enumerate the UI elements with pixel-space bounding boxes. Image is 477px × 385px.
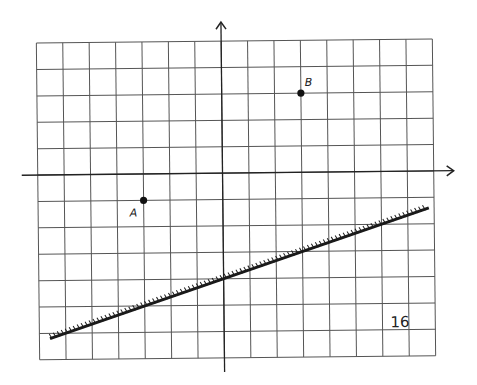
- point-label: B: [305, 76, 313, 89]
- grid-line-horizontal: [37, 92, 433, 96]
- grid-line-horizontal: [37, 118, 433, 122]
- grid-lines: [36, 39, 435, 360]
- grid-line-horizontal: [39, 303, 435, 307]
- rotated-grid-group: AB 16: [20, 20, 456, 374]
- page-number: 16: [390, 313, 409, 331]
- grid-line-horizontal: [39, 277, 435, 281]
- grid-line-horizontal: [37, 65, 433, 69]
- grid-line-horizontal: [39, 250, 435, 254]
- point-b: B: [297, 76, 312, 97]
- grid-line-horizontal: [36, 39, 432, 43]
- x-axis: [22, 171, 454, 176]
- grid-line-horizontal: [39, 329, 435, 333]
- grid-line-horizontal: [38, 197, 434, 201]
- grid-line-horizontal: [40, 356, 436, 360]
- grid-line-horizontal: [37, 145, 433, 149]
- y-axis: [221, 22, 225, 372]
- point-label: A: [129, 206, 138, 219]
- point-marker-icon: [140, 197, 147, 204]
- coordinate-plane-diagram: AB 16: [0, 0, 477, 385]
- point-marker-icon: [297, 89, 304, 96]
- coordinate-plane: AB 16: [0, 0, 477, 385]
